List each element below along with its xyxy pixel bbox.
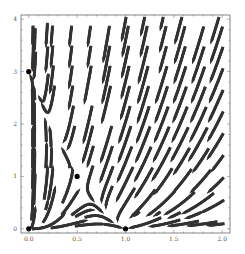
stream-arrow	[87, 63, 90, 68]
stream-arrow	[121, 94, 124, 100]
stream-arrow	[137, 99, 140, 104]
y-tick-labels: 01234	[13, 15, 17, 232]
stream-arrow	[174, 59, 177, 64]
stream-arrow	[87, 163, 90, 168]
stream-arrow	[148, 225, 153, 228]
stream-arrow	[82, 159, 85, 164]
stream-arrow	[53, 185, 56, 190]
y-tick-label: 0	[13, 225, 17, 232]
fixed-point	[75, 174, 80, 179]
x-tick-labels: 0.00.51.01.52.0	[24, 235, 227, 242]
stream-arrow	[44, 68, 47, 73]
y-tick-label: 1	[13, 172, 17, 179]
y-tick-label: 3	[13, 68, 17, 75]
x-tick-label: 0.5	[72, 235, 82, 242]
stream-arrow	[140, 32, 143, 37]
x-tick-label: 2.0	[217, 235, 227, 242]
y-tick-label: 4	[13, 15, 17, 22]
stream-arrow	[102, 58, 105, 63]
fixed-point	[26, 69, 31, 74]
stream-arrow	[100, 199, 103, 204]
stream-arrow	[68, 105, 71, 110]
stream-arrow	[101, 99, 104, 104]
stream-arrow	[68, 84, 71, 89]
stream-arrow	[44, 117, 47, 122]
stream-arrow	[210, 39, 213, 44]
fixed-points-group	[26, 69, 128, 231]
stream-plot: 0.00.51.01.52.0 01234	[0, 0, 245, 254]
stream-arrow	[120, 115, 123, 120]
stream-arrow	[90, 208, 95, 211]
stream-arrow	[33, 76, 36, 82]
stream-arrow	[138, 79, 141, 85]
stream-arrow	[104, 205, 107, 210]
stream-arrow	[83, 139, 86, 144]
stream-arrow	[127, 226, 132, 229]
stream-arrow	[100, 159, 103, 164]
stream-arrow	[101, 119, 104, 124]
x-tick-label: 1.5	[169, 235, 179, 242]
x-tick-label: 0.0	[24, 235, 34, 242]
stream-arrow	[174, 40, 177, 45]
streamlines-group	[29, 17, 225, 231]
stream-arrow	[49, 125, 52, 130]
stream-arrow	[159, 48, 162, 54]
stream-arrow	[102, 79, 105, 84]
stream-arrow	[49, 89, 52, 94]
stream-arrow	[140, 53, 143, 59]
stream-arrow	[122, 53, 125, 58]
stream-arrow	[87, 42, 90, 47]
stream-arrow	[160, 26, 163, 31]
x-tick-label: 1.0	[121, 235, 131, 242]
stream-arrow	[121, 74, 124, 80]
stream-arrow	[116, 218, 119, 223]
stream-arrow	[121, 37, 124, 42]
stream-arrow	[159, 69, 162, 74]
y-tick-label: 2	[13, 120, 17, 127]
stream-arrow	[83, 220, 88, 223]
stream-arrow	[84, 100, 87, 105]
